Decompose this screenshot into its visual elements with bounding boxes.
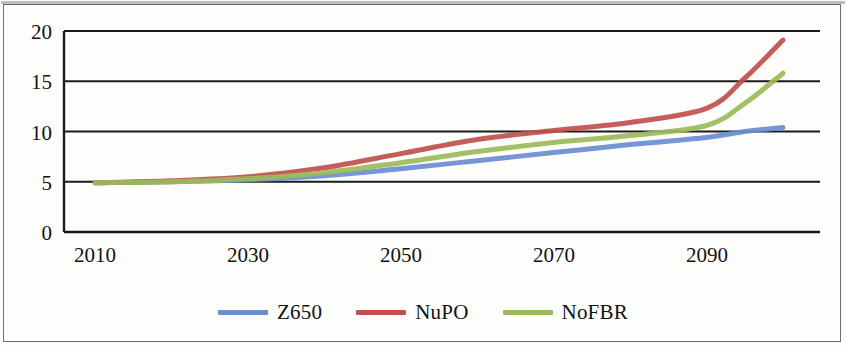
data-series-group <box>95 40 783 183</box>
x-tick-label: 2050 <box>380 243 422 267</box>
legend-swatch-z650 <box>218 310 268 315</box>
y-tick-label: 10 <box>31 121 52 145</box>
y-tick-label: 15 <box>31 70 52 94</box>
x-tick-label: 2030 <box>227 243 269 267</box>
legend-swatch-nofbr <box>503 310 553 315</box>
legend-swatch-nupo <box>356 310 406 315</box>
chart-plot-area: 20 15 10 5 0 2010 2030 2050 2070 2090 <box>0 0 846 290</box>
line-chart-svg: 20 15 10 5 0 2010 2030 2050 2070 2090 <box>0 0 846 290</box>
y-axis-tick-labels: 20 15 10 5 0 <box>31 20 52 245</box>
legend-item-nupo: NuPO <box>356 302 468 323</box>
legend-label-z650: Z650 <box>277 302 322 323</box>
chart-legend: Z650 NuPO NoFBR <box>0 292 846 332</box>
legend-label-nofbr: NoFBR <box>562 302 628 323</box>
chart-figure: 20 15 10 5 0 2010 2030 2050 2070 2090 Z <box>0 0 846 347</box>
gridlines <box>64 31 820 232</box>
y-tick-label: 5 <box>42 171 53 195</box>
legend-item-z650: Z650 <box>218 302 322 323</box>
legend-item-nofbr: NoFBR <box>503 302 628 323</box>
legend-label-nupo: NuPO <box>415 302 468 323</box>
y-tick-label: 0 <box>42 221 53 245</box>
x-axis-tick-labels: 2010 2030 2050 2070 2090 <box>74 243 728 267</box>
series-line-nupo <box>95 40 783 183</box>
x-tick-label: 2070 <box>533 243 575 267</box>
x-tick-label: 2010 <box>74 243 116 267</box>
x-tick-label: 2090 <box>686 243 728 267</box>
y-tick-label: 20 <box>31 20 52 44</box>
